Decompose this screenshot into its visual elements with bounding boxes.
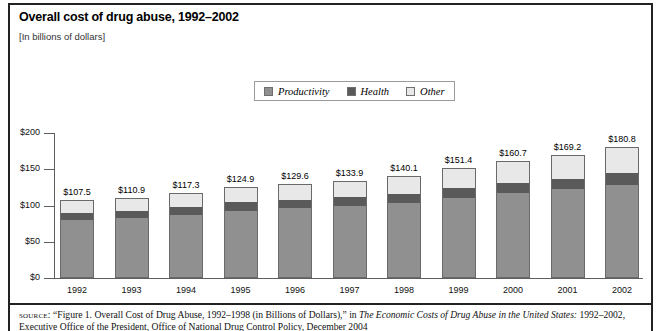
chart-legend: ProductivityHealthOther (254, 81, 455, 101)
bar-segment-health[interactable] (224, 202, 258, 210)
bar-value-label: $110.9 (104, 185, 160, 195)
y-axis-tick (44, 169, 54, 170)
bar-segment-productivity[interactable] (605, 185, 639, 278)
bar-segment-health[interactable] (387, 194, 421, 203)
legend-swatch-other (406, 87, 415, 96)
bar-segment-productivity[interactable] (278, 208, 312, 278)
y-axis-label: $150 (0, 163, 40, 173)
x-axis-label: 1994 (158, 285, 214, 295)
bar-segment-other[interactable] (115, 198, 149, 211)
bar-segment-productivity[interactable] (551, 189, 585, 278)
x-axis-label: 1992 (49, 285, 105, 295)
bar-segment-health[interactable] (333, 197, 367, 206)
y-axis-label: $0 (0, 272, 40, 282)
legend-swatch-health (347, 87, 356, 96)
bar-segment-other[interactable] (387, 176, 421, 193)
bar-segment-other[interactable] (442, 168, 476, 188)
x-axis-label: 1997 (322, 285, 378, 295)
figure-border-top (8, 3, 653, 5)
bar-stack[interactable] (278, 184, 312, 278)
bar-segment-other[interactable] (551, 155, 585, 178)
bar-segment-other[interactable] (224, 187, 258, 202)
bar-value-label: $129.6 (267, 171, 323, 181)
figure-border-right (651, 3, 653, 305)
bar-segment-other[interactable] (496, 161, 530, 182)
x-axis-label: 1993 (104, 285, 160, 295)
page-title: Overall cost of drug abuse, 1992–2002 (19, 10, 239, 24)
bar-stack[interactable] (387, 176, 421, 278)
x-axis-label: 1999 (431, 285, 487, 295)
bar-segment-health[interactable] (115, 211, 149, 218)
bar-stack[interactable] (224, 187, 258, 278)
legend-entry-productivity: Productivity (264, 86, 330, 97)
x-axis-label: 1996 (267, 285, 323, 295)
source-publication-title: The Economic Costs of Drug Abuse in the … (359, 309, 577, 320)
bar-segment-health[interactable] (169, 207, 203, 215)
legend-entry-health: Health (347, 86, 390, 97)
x-axis-label: 2002 (594, 285, 650, 295)
bar-segment-productivity[interactable] (224, 211, 258, 278)
bar-stack[interactable] (496, 161, 530, 278)
legend-label: Health (361, 86, 390, 97)
bar-segment-other[interactable] (60, 200, 94, 213)
y-axis-label: $50 (0, 236, 40, 246)
bar-segment-health[interactable] (496, 183, 530, 193)
source-border-left (8, 305, 10, 331)
legend-entry-other: Other (406, 86, 445, 97)
bar-stack[interactable] (442, 168, 476, 278)
legend-label: Productivity (278, 86, 330, 97)
bar-stack[interactable] (333, 181, 367, 278)
bar-value-label: $151.4 (431, 155, 487, 165)
bar-value-label: $107.5 (49, 187, 105, 197)
source-note: source: “Figure 1. Overall Cost of Drug … (19, 309, 643, 331)
bar-stack[interactable] (115, 198, 149, 278)
bar-stack[interactable] (551, 155, 585, 278)
bar-segment-other[interactable] (169, 193, 203, 207)
bar-value-label: $160.7 (485, 148, 541, 158)
bar-value-label: $133.9 (322, 168, 378, 178)
bar-segment-other[interactable] (605, 147, 639, 173)
bar-segment-productivity[interactable] (387, 203, 421, 278)
bar-segment-health[interactable] (278, 200, 312, 208)
bar-value-label: $117.3 (158, 180, 214, 190)
legend-swatch-productivity (264, 87, 273, 96)
y-axis-label: $200 (0, 127, 40, 137)
bar-stack[interactable] (169, 193, 203, 278)
bar-segment-other[interactable] (278, 184, 312, 200)
y-axis-tick (44, 242, 54, 243)
bar-segment-productivity[interactable] (60, 220, 94, 278)
bar-stack[interactable] (605, 147, 639, 278)
bar-segment-productivity[interactable] (496, 193, 530, 278)
bar-segment-health[interactable] (551, 179, 585, 190)
figure-container: Overall cost of drug abuse, 1992–2002 [I… (0, 0, 659, 331)
x-axis-line (44, 278, 643, 279)
bar-segment-productivity[interactable] (333, 206, 367, 278)
x-axis-label: 1998 (376, 285, 432, 295)
bar-segment-productivity[interactable] (169, 215, 203, 278)
bar-value-label: $169.2 (540, 142, 596, 152)
figure-border-left (8, 3, 10, 305)
y-axis-tick (44, 133, 54, 134)
bar-segment-productivity[interactable] (115, 218, 149, 278)
bar-value-label: $180.8 (594, 134, 650, 144)
y-axis-label: $100 (0, 200, 40, 210)
source-kicker: source: (19, 309, 51, 320)
bar-segment-productivity[interactable] (442, 198, 476, 278)
x-axis-label: 1995 (213, 285, 269, 295)
legend-label: Other (420, 86, 445, 97)
y-axis-tick (44, 206, 54, 207)
bar-stack[interactable] (60, 200, 94, 278)
bar-segment-health[interactable] (605, 173, 639, 185)
bar-segment-health[interactable] (60, 213, 94, 220)
bar-value-label: $140.1 (376, 163, 432, 173)
bar-segment-health[interactable] (442, 188, 476, 198)
bar-segment-other[interactable] (333, 181, 367, 197)
x-axis-label: 2001 (540, 285, 596, 295)
chart-subtitle: [In billions of dollars] (19, 31, 105, 42)
source-text: “Figure 1. Overall Cost of Drug Abuse, 1… (53, 309, 359, 320)
source-border-right (651, 305, 653, 331)
figure-border-bottom (8, 303, 653, 305)
y-axis-tick (44, 278, 54, 279)
x-axis-label: 2000 (485, 285, 541, 295)
bar-value-label: $124.9 (213, 174, 269, 184)
